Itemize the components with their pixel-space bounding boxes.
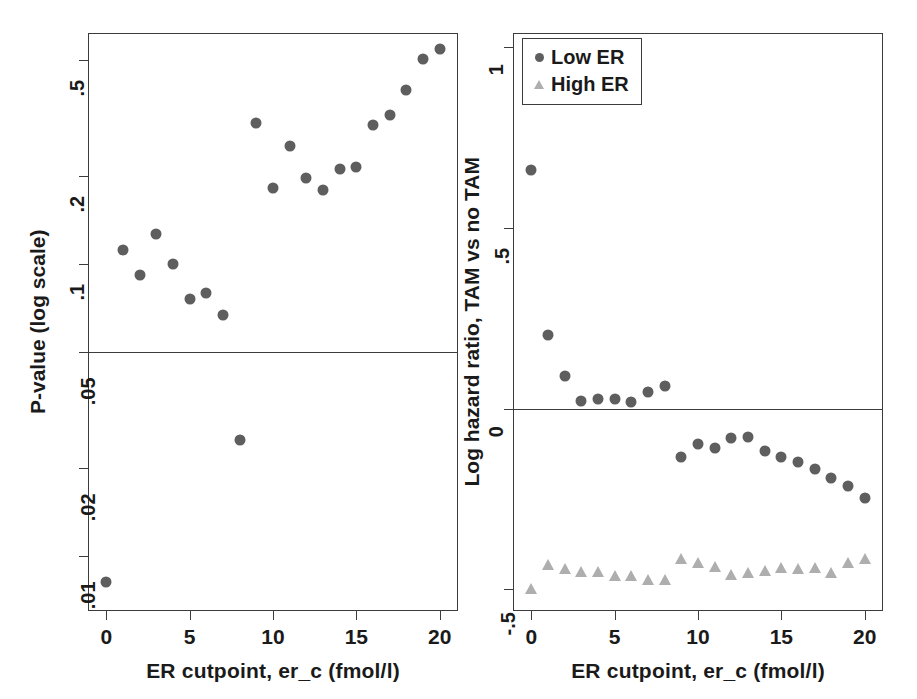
x-tick-mark <box>273 611 274 620</box>
x-tick-label: 0 <box>525 625 537 649</box>
data-point <box>809 562 821 573</box>
right-y-axis-title: Log hazard ratio, TAM vs no TAM <box>460 157 484 486</box>
x-tick-mark <box>356 611 357 620</box>
y-tick-mark <box>79 352 88 353</box>
data-point <box>576 395 587 406</box>
data-point <box>526 165 537 176</box>
data-point <box>693 439 704 450</box>
y-tick-mark <box>79 264 88 265</box>
data-point <box>368 120 379 131</box>
data-point <box>118 245 129 256</box>
data-point <box>643 386 654 397</box>
data-point <box>792 563 804 574</box>
data-point <box>168 259 179 270</box>
data-point <box>776 452 787 463</box>
data-point <box>725 568 737 579</box>
data-point <box>775 562 787 573</box>
x-tick-label: 20 <box>853 625 876 649</box>
y-tick-label: 1 <box>497 65 520 76</box>
data-point <box>859 492 870 503</box>
data-point <box>826 472 837 483</box>
right-plot-data-area <box>513 33 883 611</box>
data-point <box>268 182 279 193</box>
figure-root: .5.2.1.05.02.01 05101520 P-value (log sc… <box>0 0 917 699</box>
data-point <box>609 394 620 405</box>
x-tick-label: 20 <box>428 625 451 649</box>
legend-label-high-er: High ER <box>549 73 629 96</box>
data-point <box>318 184 329 195</box>
data-point <box>559 371 570 382</box>
data-point <box>842 557 854 568</box>
y-tick-mark <box>79 176 88 177</box>
data-point <box>592 566 604 577</box>
x-tick-label: 0 <box>100 625 112 649</box>
y-tick-label: .01 <box>88 582 111 610</box>
data-point <box>434 44 445 55</box>
data-point <box>692 557 704 568</box>
data-point <box>859 553 871 564</box>
x-tick-label: 15 <box>345 625 368 649</box>
y-tick-mark <box>504 228 513 229</box>
left-x-axis-title: ER cutpoint, er_c (fmol/l) <box>146 659 400 683</box>
y-tick-label: .2 <box>77 196 100 213</box>
data-point <box>742 567 754 578</box>
data-point <box>825 567 837 578</box>
y-tick-mark <box>79 60 88 61</box>
data-point <box>351 161 362 172</box>
legend-item-high-er: High ER <box>529 71 629 98</box>
y-tick-label: .02 <box>88 494 111 522</box>
x-tick-label: 10 <box>686 625 709 649</box>
x-tick-mark <box>106 611 107 620</box>
data-point <box>659 380 670 391</box>
data-point <box>543 329 554 340</box>
data-point <box>234 435 245 446</box>
data-point <box>301 173 312 184</box>
data-point <box>593 393 604 404</box>
data-point <box>726 432 737 443</box>
data-point <box>184 294 195 305</box>
left-y-axis-title: P-value (log scale) <box>26 230 50 414</box>
data-point <box>642 574 654 585</box>
data-point <box>201 287 212 298</box>
data-point <box>675 553 687 564</box>
y-tick-label: .1 <box>77 284 100 301</box>
data-point <box>659 574 671 585</box>
data-point <box>709 561 721 572</box>
y-tick-mark <box>79 468 88 469</box>
legend-label-low-er: Low ER <box>549 46 624 69</box>
legend-circle-icon <box>529 53 549 62</box>
data-point <box>151 229 162 240</box>
y-tick-label: .5 <box>77 80 100 97</box>
data-point <box>793 457 804 468</box>
data-point <box>134 269 145 280</box>
data-point <box>251 117 262 128</box>
data-point <box>284 140 295 151</box>
legend-item-low-er: Low ER <box>529 44 629 71</box>
x-tick-mark <box>440 611 441 620</box>
x-tick-label: 5 <box>609 625 621 649</box>
data-point <box>334 164 345 175</box>
y-tick-mark <box>504 47 513 48</box>
x-tick-label: 15 <box>770 625 793 649</box>
data-point <box>542 559 554 570</box>
y-tick-mark <box>79 556 88 557</box>
data-point <box>626 397 637 408</box>
data-point <box>676 451 687 462</box>
data-point <box>759 445 770 456</box>
data-point <box>218 310 229 321</box>
data-point <box>709 442 720 453</box>
x-tick-mark <box>698 611 699 620</box>
x-tick-label: 5 <box>184 625 196 649</box>
x-tick-mark <box>865 611 866 620</box>
left-panel: .5.2.1.05.02.01 05101520 P-value (log sc… <box>0 0 460 699</box>
data-point <box>418 54 429 65</box>
x-tick-label: 10 <box>261 625 284 649</box>
data-point <box>809 464 820 475</box>
left-plot-data-area <box>88 33 458 611</box>
data-point <box>625 570 637 581</box>
x-tick-mark <box>190 611 191 620</box>
legend-triangle-icon <box>529 80 549 89</box>
right-x-axis-title: ER cutpoint, er_c (fmol/l) <box>571 659 825 683</box>
x-tick-mark <box>615 611 616 620</box>
data-point <box>843 480 854 491</box>
